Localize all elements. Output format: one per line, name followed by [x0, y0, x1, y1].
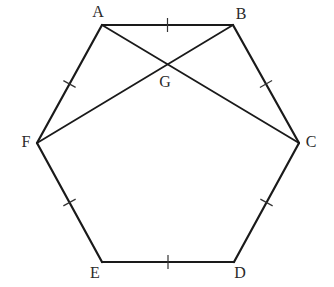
- tick-mark-fa: [63, 81, 75, 88]
- vertex-labels: A B C D E F G: [22, 3, 317, 281]
- vertex-label-b: B: [236, 5, 247, 22]
- tick-mark-cd: [260, 199, 272, 206]
- tick-mark-ef: [63, 199, 75, 206]
- vertex-label-f: F: [22, 133, 31, 150]
- congruence-tick-marks: [63, 18, 272, 269]
- tick-mark-bc: [260, 81, 272, 88]
- intersection-label-g: G: [159, 73, 171, 90]
- diagonal-ac: [102, 25, 299, 143]
- hexagon-edges: [37, 25, 299, 262]
- vertex-label-c: C: [306, 133, 317, 150]
- hexagon-diagram: A B C D E F G: [0, 0, 334, 287]
- vertex-label-e: E: [90, 264, 100, 281]
- vertex-label-a: A: [92, 3, 104, 20]
- vertex-label-d: D: [234, 264, 246, 281]
- diagonal-bf: [37, 25, 233, 143]
